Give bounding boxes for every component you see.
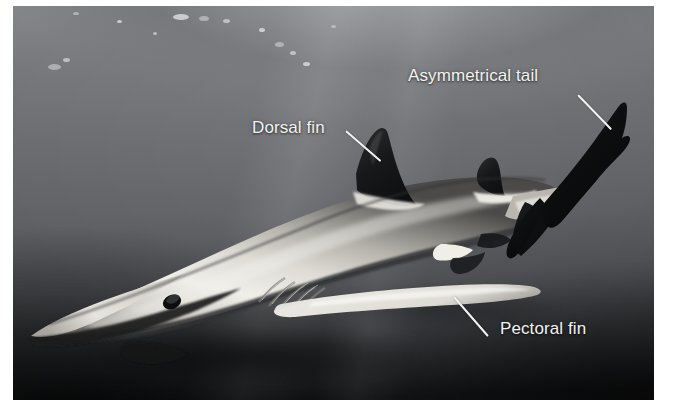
label-dorsal-fin: Dorsal fin xyxy=(252,118,325,137)
shark-illustration xyxy=(13,6,654,400)
label-pectoral-fin: Pectoral fin xyxy=(500,319,586,338)
label-asymmetrical-tail: Asymmetrical tail xyxy=(408,66,538,85)
dorsal-fin xyxy=(356,128,417,206)
shark-photograph: Asymmetrical tailDorsal finPectoral fin xyxy=(13,6,654,400)
figure-root: Asymmetrical tailDorsal finPectoral fin xyxy=(0,0,673,415)
caudal-fin-upper-lobe xyxy=(541,102,630,227)
